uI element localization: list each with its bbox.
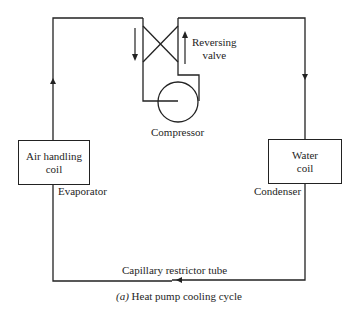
water-coil-box: Water coil [268,139,342,184]
water-coil-label-line1: Water [292,149,318,162]
reversing-valve-label: Reversing valve [192,36,237,62]
flow-arrow-down-icon [302,74,308,80]
valve-arrow-down-icon [132,54,138,61]
condenser-label: Condenser [254,185,301,197]
compressor-label: Compressor [151,126,204,138]
evaporator-label: Evaporator [58,185,107,197]
compressor-symbol [158,82,198,122]
caption-text: Heat pump cooling cycle [132,290,242,302]
caption-prefix: (a) [116,290,129,302]
flow-arrow-up-icon [50,78,56,84]
compressor-discharge-to-valve [178,62,199,101]
capillary-tube-label: Capillary restrictor tube [122,264,227,276]
flow-arrow-left-icon [176,277,182,283]
refrigerant-line-top-left [53,18,143,140]
air-handling-coil-label-line2: coil [26,163,82,176]
air-handling-coil-box: Air handling coil [18,140,90,185]
valve-arrow-up-icon [182,31,188,38]
reversing-valve-label-line1: Reversing [192,36,237,49]
air-handling-coil-label-line1: Air handling [26,150,82,163]
water-coil-label-line2: coil [292,162,318,175]
valve-to-compressor-suction [143,62,178,101]
figure-caption: (a) Heat pump cooling cycle [116,290,242,302]
reversing-valve-label-line2: valve [192,49,237,62]
